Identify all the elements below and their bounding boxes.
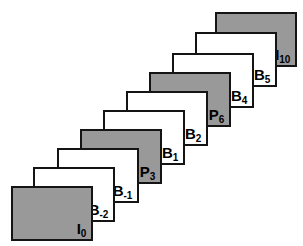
frame-sequence-diagram: I0B-2B-1P3B1B2P6B4B5I10 <box>0 0 303 246</box>
video-frame-i0: I0 <box>11 186 93 241</box>
frame-label-i10: I10 <box>275 47 290 62</box>
frame-label-base: B <box>162 144 173 161</box>
frame-label-base: B <box>254 66 265 83</box>
frame-label-base: P <box>209 106 219 123</box>
frame-label-subscript: 5 <box>265 74 270 85</box>
frame-label-p3: P3 <box>140 164 155 179</box>
frame-label-subscript: 1 <box>173 152 178 163</box>
frame-label-subscript: -2 <box>100 209 109 220</box>
frame-label-subscript: 3 <box>150 171 155 182</box>
frame-label-subscript: 0 <box>81 228 86 239</box>
frame-label-base: B <box>231 87 242 104</box>
frame-label-subscript: 6 <box>219 114 224 125</box>
frame-label-i0: I0 <box>77 221 86 236</box>
frame-label-b5: B5 <box>254 67 270 82</box>
frame-label-subscript: 10 <box>279 54 290 65</box>
frame-label-b2: B2 <box>185 126 201 141</box>
frame-label-b1: B1 <box>162 145 178 160</box>
frame-label-subscript: -1 <box>124 190 133 201</box>
frame-label-b-1: B-1 <box>113 183 132 198</box>
frame-label-p6: P6 <box>209 107 224 122</box>
frame-label-subscript: 4 <box>242 95 247 106</box>
frame-label-base: B <box>185 125 196 142</box>
frame-label-subscript: 2 <box>196 133 201 144</box>
frame-label-base: P <box>140 163 150 180</box>
frame-label-b4: B4 <box>231 88 247 103</box>
